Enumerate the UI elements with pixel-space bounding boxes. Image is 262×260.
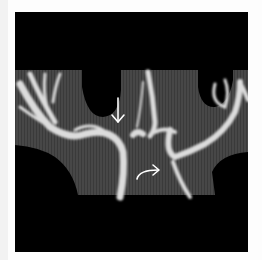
figure-frame [0, 0, 262, 260]
angiogram-svg [15, 12, 248, 252]
angiogram-image [15, 12, 248, 252]
left-margin-strip [0, 0, 8, 260]
